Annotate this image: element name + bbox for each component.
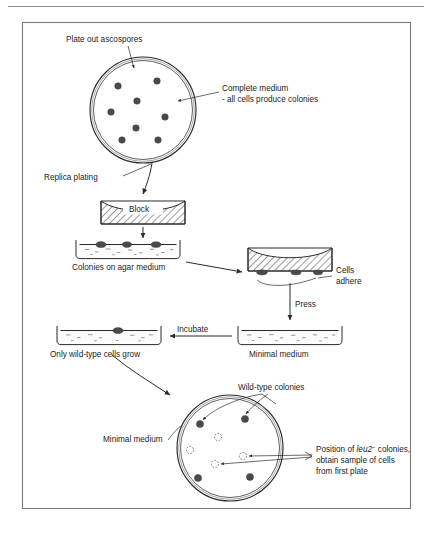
replica-plating-arrow	[143, 163, 152, 194]
replica-plating-label: Replica plating	[44, 173, 98, 182]
inverted-block-with-cells	[248, 248, 332, 285]
minimal-medium-mid-label: Minimal medium	[249, 350, 309, 359]
leu2-position-label-line3: from first plate	[316, 467, 368, 476]
leu2-gene-name: leu2	[357, 445, 373, 454]
wild-type-growth-plate	[57, 326, 161, 345]
leu2-leader-junction	[305, 452, 312, 460]
cells-adhere-label-line2: adhere	[336, 277, 362, 286]
complete-medium-label-line2: - all cells produce colonies	[222, 95, 318, 104]
block-label: Block	[129, 205, 150, 214]
minimal-medium-bottom-label: Minimal medium	[103, 435, 163, 444]
plate-out-ascospores-label: Plate out ascospores	[66, 35, 142, 44]
replica-plating-leader	[123, 164, 151, 176]
colonies-on-agar-plate	[76, 240, 180, 259]
complete-medium-plate	[90, 57, 196, 163]
colonies-on-agar-label: Colonies on agar medium	[72, 263, 165, 272]
only-wild-type-label: Only wild-type cells grow	[50, 350, 140, 359]
leu2-position-label-line2: obtain sample of cells	[316, 456, 395, 465]
plate-to-inverted-block-arrow	[186, 262, 242, 272]
incubate-label: Incubate	[177, 325, 209, 334]
press-label: Press	[295, 300, 316, 309]
cells-adhere-underline	[257, 278, 316, 285]
leu2-position-label-line1: Position of leu2− colonies,	[316, 444, 410, 454]
minimal-medium-plate	[238, 326, 342, 345]
grown-plate-to-result-arrow	[112, 355, 170, 395]
cells-adhere-label-line1: Cells	[336, 266, 354, 275]
figure-canvas: Plate out ascospores Complete medium - a…	[0, 0, 432, 540]
leu2-suffix: colonies,	[376, 445, 411, 454]
wild-type-colonies-label: Wild-type colonies	[238, 383, 304, 392]
cells-adhere-leader	[318, 276, 332, 278]
leu2-prefix: Position of	[316, 445, 357, 454]
replica-plating-figure: Plate out ascospores Complete medium - a…	[0, 0, 432, 540]
complete-medium-label-line1: Complete medium	[222, 84, 289, 93]
minimal-medium-result-plate	[177, 395, 283, 501]
wild-type-leader-cross	[262, 394, 276, 404]
